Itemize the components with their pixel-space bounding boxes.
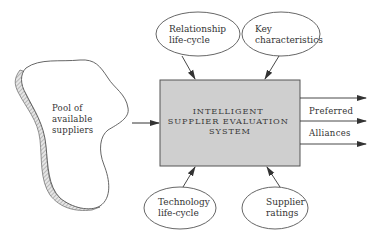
- supplier-evaluation-diagram: Pool of available suppliers INTELLIGENT …: [0, 0, 379, 242]
- supplier-ratings-arrow: [267, 167, 280, 187]
- alliances-label: Alliances: [308, 128, 351, 138]
- technology-arrow: [183, 167, 195, 187]
- relationship-arrow: [182, 56, 195, 79]
- preferred-label: Preferred: [309, 106, 354, 116]
- supplier-ratings-node: Supplier ratings: [242, 187, 308, 229]
- relationship-life-cycle-node: Relationship life-cycle: [156, 12, 240, 56]
- technology-life-cycle-node: Technology life-cycle: [144, 187, 216, 229]
- key-characteristics-arrow: [265, 56, 279, 79]
- key-characteristics-node: Key characteristics: [242, 12, 323, 56]
